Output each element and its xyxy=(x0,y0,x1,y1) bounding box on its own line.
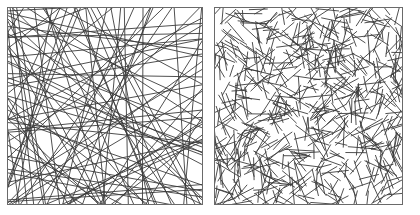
long-fiber-network-plot xyxy=(8,8,202,204)
long-fiber-network-panel xyxy=(7,7,203,205)
fiber-lines xyxy=(8,8,202,204)
fiber-lines xyxy=(215,8,402,204)
short-fiber-network-plot xyxy=(215,8,402,204)
short-fiber-network-panel xyxy=(214,7,403,205)
